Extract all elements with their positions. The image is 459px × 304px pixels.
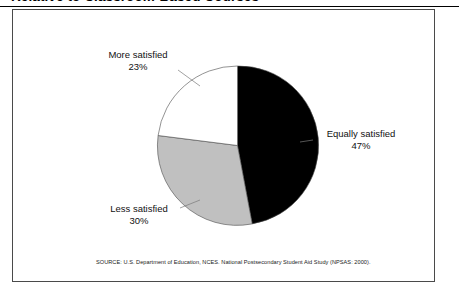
pie-label-equally-satisfied: Equally satisfied 47%	[316, 128, 406, 152]
pie-label-less-satisfied-value: 30%	[99, 215, 179, 227]
pie-label-equally-satisfied-value: 47%	[316, 140, 406, 152]
pie-label-more-satisfied-name: More satisfied	[98, 49, 178, 61]
pie-slice-more-satisfied[interactable]	[158, 66, 237, 146]
pie-label-equally-satisfied-name: Equally satisfied	[316, 128, 406, 140]
pie-label-more-satisfied: More satisfied 23%	[98, 49, 178, 73]
pie-label-less-satisfied-name: Less satisfied	[99, 203, 179, 215]
figure-container: Relative to Classroom-Based Courses More…	[0, 0, 459, 304]
pie-label-less-satisfied: Less satisfied 30%	[99, 203, 179, 227]
source-note: SOURCE: U.S. Department of Education, NC…	[96, 259, 371, 265]
pie-slice-equally-satisfied[interactable]	[238, 66, 319, 224]
pie-label-more-satisfied-value: 23%	[98, 61, 178, 73]
